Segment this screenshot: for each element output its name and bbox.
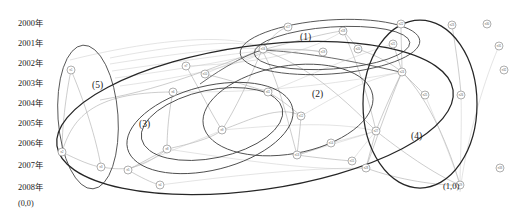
node-label: n13 — [295, 153, 300, 157]
node-label: n26 — [459, 93, 464, 97]
graph-node[interactable]: n15 — [348, 157, 356, 165]
node-label: n12 — [299, 114, 304, 118]
graph-node[interactable]: n23 — [448, 21, 456, 29]
cluster-label-5: (5) — [92, 80, 103, 91]
graph-node[interactable]: n16 — [259, 45, 267, 53]
node-label: n10 — [203, 72, 208, 76]
graph-node[interactable]: n7 — [182, 62, 190, 70]
graph-node[interactable]: n6 — [169, 88, 177, 96]
graph-node[interactable]: n27 — [372, 127, 380, 135]
graph-node[interactable]: n13 — [293, 151, 301, 159]
node-label: n21 — [391, 42, 396, 46]
figure-canvas: 2000年2001年2002年2003年2004年2005年2006年2007年… — [0, 0, 524, 215]
cluster-label-3: (3) — [139, 119, 150, 130]
node-label: n24 — [400, 70, 405, 74]
graph-node[interactable]: n20 — [354, 45, 362, 53]
node-label: n20 — [356, 47, 361, 51]
node-label: n23 — [450, 23, 455, 27]
cluster-label-1: (1) — [300, 32, 311, 43]
node-label: n16 — [261, 47, 266, 51]
cluster-hull-layer — [47, 14, 477, 215]
graph-node[interactable]: n25 — [421, 91, 429, 99]
graph-node[interactable]: n2 — [58, 148, 66, 156]
node-label: n14 — [329, 141, 334, 145]
node-label: n30 — [485, 22, 490, 26]
graph-node[interactable]: n1 — [67, 66, 75, 74]
node-label: n27 — [374, 129, 379, 133]
graph-node[interactable]: n11 — [264, 88, 272, 96]
graph-node[interactable]: n18 — [339, 27, 347, 35]
node-label: n25 — [423, 93, 428, 97]
graph-node[interactable]: n22 — [397, 20, 405, 28]
graph-node[interactable]: n5 — [124, 166, 132, 174]
cluster-hull-4 — [363, 20, 477, 188]
node-label: n33 — [498, 166, 503, 170]
graph-node[interactable]: n19 — [319, 48, 327, 56]
network-graph: n1n2n3n4n5n6n7n8n9n10n11n12n13n14n15n16n… — [0, 0, 524, 215]
cluster-hull-2 — [196, 52, 381, 169]
cluster-hull-outer-band — [47, 19, 463, 215]
graph-node[interactable]: n31 — [495, 42, 503, 50]
graph-node[interactable]: n10 — [201, 70, 209, 78]
graph-node[interactable]: n32 — [500, 66, 508, 74]
graph-node[interactable]: n4 — [156, 181, 164, 189]
graph-node[interactable]: n12 — [297, 112, 305, 120]
graph-node[interactable]: n9 — [218, 126, 226, 134]
graph-node[interactable]: n30 — [483, 20, 491, 28]
graph-node[interactable]: n33 — [496, 164, 504, 172]
graph-node[interactable]: n8 — [163, 145, 171, 153]
node-label: n31 — [497, 44, 502, 48]
node-label: n17 — [286, 25, 291, 29]
graph-node[interactable]: n24 — [398, 68, 406, 76]
cluster-label-4: (4) — [411, 131, 422, 142]
corner-coordinate-label: (1,0) — [443, 181, 459, 191]
node-label: n11 — [266, 90, 271, 94]
node-label: n18 — [341, 29, 346, 33]
graph-node[interactable]: n28 — [362, 164, 370, 172]
graph-node[interactable]: n14 — [327, 139, 335, 147]
node-label: n32 — [502, 68, 507, 72]
graph-node[interactable]: n3 — [97, 163, 105, 171]
cluster-label-2: (2) — [312, 89, 323, 100]
graph-node[interactable]: n21 — [389, 40, 397, 48]
graph-node[interactable]: n17 — [284, 23, 292, 31]
node-label: n15 — [350, 159, 355, 163]
node-label: n19 — [321, 50, 326, 54]
cluster-hull-5 — [53, 43, 123, 191]
node-label: n22 — [399, 22, 404, 26]
node-label: n28 — [364, 166, 369, 170]
graph-node[interactable]: n26 — [457, 91, 465, 99]
